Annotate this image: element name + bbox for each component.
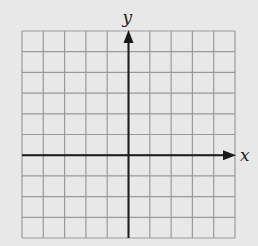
y-axis-arrow-icon xyxy=(124,30,134,43)
y-axis-label: y xyxy=(122,7,133,27)
coordinate-plane: x y xyxy=(0,0,258,246)
x-axis-arrow-icon xyxy=(223,150,236,160)
x-axis-label: x xyxy=(240,145,250,165)
